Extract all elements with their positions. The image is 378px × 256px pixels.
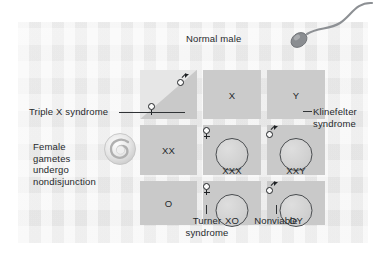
female-symbol-bar — [204, 136, 210, 137]
punnett-square-grid: X Y XX O XXX — [140, 70, 325, 225]
column-header-label: X — [203, 89, 261, 100]
male-symbol-arrow-head — [274, 182, 278, 186]
row-header-label: XX — [140, 145, 197, 156]
male-symbol-ring — [266, 131, 273, 138]
row-header-label: O — [140, 198, 197, 209]
grid-result-cell-xxy: XXY — [267, 125, 325, 175]
female-symbol — [146, 102, 159, 116]
male-symbol — [176, 74, 189, 88]
grid-row-header-xx: XX — [140, 125, 197, 175]
callout-turner-syndrome: Turner syndrome — [177, 215, 237, 238]
female-symbol-ring — [203, 183, 210, 190]
male-symbol — [265, 182, 278, 196]
female-symbol-ring — [203, 127, 210, 134]
leader-line-nonviable — [276, 205, 277, 214]
callout-normal-male: Normal male — [186, 33, 242, 45]
callout-female-gametes-nondisjunction: Female gametes undergo nondisjunction — [33, 141, 96, 187]
male-symbol-ring — [266, 187, 273, 194]
leader-line-triple-x — [119, 112, 185, 113]
callout-triple-x-syndrome: Triple X syndrome — [29, 106, 108, 118]
female-symbol — [201, 182, 214, 196]
female-symbol-bar — [204, 192, 210, 193]
grid-result-cell-xxx: XXX — [203, 125, 261, 175]
male-symbol — [265, 126, 278, 140]
callout-klinefelter-syndrome: Klinefelter syndrome — [313, 106, 357, 129]
male-symbol-arrow-head — [274, 126, 278, 130]
male-symbol-ring — [177, 79, 184, 86]
leader-line-turner — [206, 205, 207, 214]
callout-nonviable: Nonviable — [245, 215, 307, 227]
genotype-label: XXY — [267, 165, 325, 176]
male-symbol-arrow-head — [185, 74, 189, 78]
genotype-label: XXX — [203, 165, 261, 176]
female-symbol — [201, 126, 214, 140]
leader-line-klinefelter — [303, 111, 312, 112]
grid-column-header-x: X — [203, 70, 261, 119]
column-header-label: Y — [267, 89, 325, 100]
figure-panel: X Y XX O XXX — [18, 22, 368, 243]
female-symbol-ring — [148, 103, 155, 110]
